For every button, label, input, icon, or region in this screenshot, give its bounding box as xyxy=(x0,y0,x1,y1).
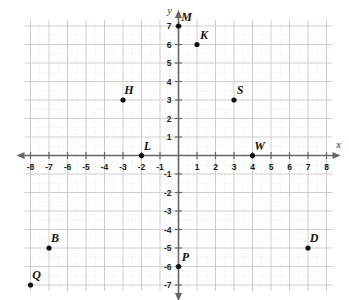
point-dot xyxy=(120,97,125,102)
y-tick-label: -1 xyxy=(164,169,172,179)
y-tick-label: 1 xyxy=(167,132,172,142)
x-tick-label: -2 xyxy=(138,162,146,172)
point-dot xyxy=(231,97,236,102)
y-tick-label: -5 xyxy=(164,243,172,253)
x-tick-label: 4 xyxy=(250,162,255,172)
x-tick-label: -1 xyxy=(156,162,164,172)
point-dot xyxy=(28,282,33,287)
x-tick-label: 7 xyxy=(306,162,311,172)
y-tick-label: -2 xyxy=(164,188,172,198)
y-axis-label: y xyxy=(166,5,172,16)
plotted-points: MKHSLWBDPQ xyxy=(28,10,319,288)
point-dot xyxy=(250,153,255,158)
point-label: D xyxy=(309,231,319,245)
coordinate-plane-svg: -8-7-6-5-4-3-2-112345678 7654321-1-2-3-4… xyxy=(0,0,349,300)
point-dot xyxy=(176,23,181,28)
y-axis-arrow-down xyxy=(175,293,182,300)
point-label: B xyxy=(50,231,59,245)
point-label: L xyxy=(143,139,151,153)
x-tick-label: -3 xyxy=(119,162,127,172)
point-dot xyxy=(46,245,51,250)
point-label: W xyxy=(254,139,266,153)
x-tick-label: -6 xyxy=(64,162,72,172)
y-tick-label: 2 xyxy=(167,114,172,124)
point-dot xyxy=(176,264,181,269)
y-tick-label: -7 xyxy=(164,280,172,290)
x-tick-label: 2 xyxy=(213,162,218,172)
x-tick-label: -8 xyxy=(27,162,35,172)
y-tick-label: 3 xyxy=(167,95,172,105)
coordinate-plane-figure: -8-7-6-5-4-3-2-112345678 7654321-1-2-3-4… xyxy=(0,0,349,300)
x-axis-arrow-right xyxy=(333,152,341,159)
x-tick-label: -4 xyxy=(101,162,109,172)
x-tick-label: 8 xyxy=(324,162,329,172)
point-dot xyxy=(305,245,310,250)
x-tick-label: -7 xyxy=(45,162,53,172)
y-tick-label: 4 xyxy=(167,77,172,87)
point-label: Q xyxy=(32,268,41,282)
point-label: K xyxy=(199,28,209,42)
x-tick-label: 1 xyxy=(195,162,200,172)
x-tick-label: 6 xyxy=(287,162,292,172)
x-axis-arrow-left xyxy=(17,152,25,159)
point-dot xyxy=(194,42,199,47)
x-axis-label: x xyxy=(335,139,341,150)
y-tick-label: -6 xyxy=(164,262,172,272)
y-tick-label: 7 xyxy=(167,21,172,31)
point-label: H xyxy=(123,83,134,97)
x-tick-label: 3 xyxy=(232,162,237,172)
y-tick-label: 5 xyxy=(167,58,172,68)
x-tick-label: -5 xyxy=(82,162,90,172)
y-tick-label: -3 xyxy=(164,206,172,216)
point-label: P xyxy=(182,250,190,264)
axes xyxy=(17,10,341,300)
point-dot xyxy=(139,153,144,158)
y-tick-label: -4 xyxy=(164,225,172,235)
y-tick-label: 6 xyxy=(167,40,172,50)
x-tick-label: 5 xyxy=(269,162,274,172)
point-label: S xyxy=(237,83,244,97)
point-label: M xyxy=(180,10,192,24)
